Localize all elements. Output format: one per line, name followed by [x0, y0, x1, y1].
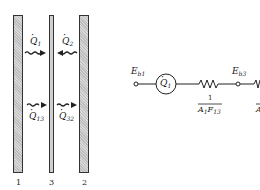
wavy-arrow-q2-icon	[61, 52, 77, 54]
node-eb1-label: Eb1	[131, 67, 145, 77]
resistor-1-denominator: A1F13	[198, 106, 221, 115]
plate-1-label: 1	[16, 179, 21, 187]
arrows-and-circuit-lines	[0, 0, 260, 190]
node-eb3-label: Eb3	[232, 67, 246, 77]
plate-3-label: 3	[49, 179, 54, 187]
label-q1: Q1	[30, 37, 41, 47]
resistor-1-numerator: 1	[208, 95, 212, 102]
source-q1-label: Q1	[160, 79, 171, 89]
node-eb3-icon	[236, 82, 240, 86]
label-q2: Q2	[62, 37, 73, 47]
resistor-1-icon	[199, 80, 218, 88]
node-eb1-icon	[134, 82, 138, 86]
plate-2-label: 2	[82, 179, 87, 187]
wavy-arrow-q1-icon	[25, 52, 41, 54]
label-q13: Q13	[29, 112, 44, 122]
resistor-2-denominator-partial: A	[256, 106, 260, 114]
label-q32: Q32	[59, 112, 74, 122]
resistor-2-partial-icon	[254, 80, 260, 88]
